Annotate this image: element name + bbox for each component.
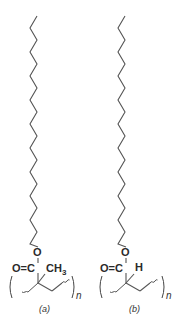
repeat-unit-n-a: n <box>76 290 82 301</box>
methyl-group-a: CH3 <box>46 262 67 277</box>
right-bracket-a <box>72 276 74 298</box>
left-bracket-a <box>10 276 12 298</box>
carbonyl-group-a: O=C <box>12 262 35 274</box>
right-bracket-b <box>162 276 164 298</box>
structure-label-b: (b) <box>129 304 140 314</box>
structure-label-a: (a) <box>39 304 50 314</box>
backbone-left-wavy-b <box>110 283 126 293</box>
ester-oxygen-b: O <box>121 246 130 258</box>
polymer-structures-diagram: O O=C CH3 n (a) O O=C H n (b) <box>0 0 182 327</box>
backbone-right-wavy-b <box>150 280 158 283</box>
backbone-left-wavy-a <box>22 283 38 293</box>
methyl-ch-a: CH <box>46 262 62 274</box>
carbonyl-group-b: O=C <box>100 262 123 274</box>
backbone-right-bond-b <box>126 283 140 291</box>
backbone-right-bond2-b <box>140 283 150 291</box>
repeat-unit-n-b: n <box>166 290 172 301</box>
hydrogen-atom-b: H <box>135 261 143 273</box>
backbone-right-bond2-a <box>52 283 62 291</box>
alkyl-chain-b <box>118 16 126 247</box>
structure-a: O O=C CH3 n (a) <box>10 16 82 314</box>
methyl-subscript-a: 3 <box>62 268 67 277</box>
backbone-right-wavy-a <box>62 280 70 283</box>
ester-oxygen-a: O <box>33 246 42 258</box>
h-bond-b <box>126 274 134 283</box>
backbone-right-bond-a <box>38 283 52 291</box>
ch3-bond-a <box>38 274 45 283</box>
alkyl-chain-a <box>30 16 38 247</box>
structure-b: O O=C H n (b) <box>100 16 172 314</box>
left-bracket-b <box>100 276 102 298</box>
